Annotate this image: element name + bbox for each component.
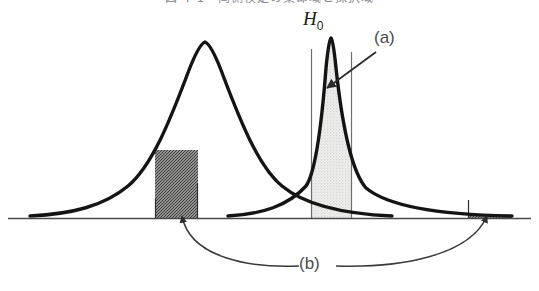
rejection-region-right — [468, 150, 514, 218]
null-hypothesis-subscript: 0 — [317, 19, 324, 33]
callout-b-label: (b) — [299, 254, 320, 274]
null-hypothesis-label: H0 — [303, 8, 323, 33]
figure-container: 図 4-1 両側検定の棄却域と採択域 H0 (a) (b) — [0, 0, 539, 291]
null-distribution-curve — [228, 38, 512, 216]
null-hypothesis-letter: H — [303, 8, 317, 29]
statistics-figure — [0, 0, 539, 291]
callout-b-brace-right — [336, 216, 487, 266]
rejection-region-left — [155, 150, 198, 218]
acceptance-band — [311, 30, 352, 218]
callout-b-brace-left — [182, 216, 299, 266]
callout-a-label: (a) — [374, 28, 395, 48]
